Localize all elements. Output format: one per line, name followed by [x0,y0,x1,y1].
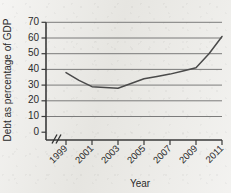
y-tick-label-50: 50 [28,47,40,58]
y-tick-labels: 70 60 50 40 30 20 10 0 [28,16,40,137]
y-tick-label-10: 10 [28,110,40,121]
x-axis-title: Year [130,178,151,189]
y-tick-label-30: 30 [28,79,40,90]
y-tick-label-0: 0 [33,126,39,137]
x-tick-label-2003: 2003 [99,143,122,166]
chart-canvas: 70 60 50 40 30 20 10 0 1999 2001 [0,0,231,193]
x-tick-label-2005: 2005 [125,143,148,166]
x-tick-label-1999: 1999 [47,143,70,166]
line-chart: 70 60 50 40 30 20 10 0 1999 2001 [0,0,231,193]
y-tick-label-60: 60 [28,32,40,43]
x-tick-label-2009: 2009 [177,143,200,166]
x-tick-label-2007: 2007 [151,143,174,166]
axis-break-icon [52,135,61,144]
x-tick-label-2011: 2011 [203,143,225,165]
y-tick-label-20: 20 [28,94,40,105]
x-tick-labels: 1999 2001 2003 2005 2007 2009 2011 [47,143,226,166]
y-tick-label-40: 40 [28,63,40,74]
y-axis-title: Debt as percentage of GDP [2,18,13,141]
data-series-line [66,36,222,88]
grid-lines [46,22,222,116]
y-tick-label-70: 70 [28,16,40,27]
x-tick-label-2001: 2001 [73,143,96,166]
